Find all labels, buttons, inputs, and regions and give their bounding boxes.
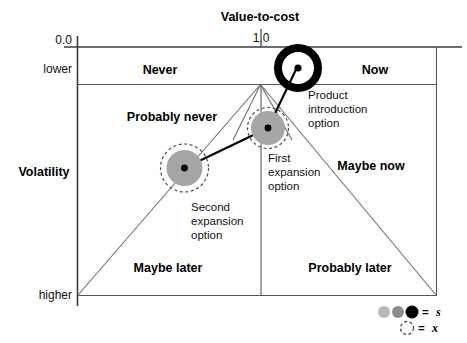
zone-label-never: Never	[143, 63, 178, 77]
second-expansion-line1: Second	[191, 201, 230, 213]
first-expansion-line3: option	[268, 180, 299, 192]
product-introduction-line3: option	[308, 117, 339, 129]
center-dot-product-introduction	[294, 64, 301, 71]
zone-label-maybe-later: Maybe later	[134, 261, 203, 275]
zone-label-probably-never: Probably never	[127, 110, 217, 124]
legend-variable-s: s	[435, 305, 441, 319]
zone-label-now: Now	[362, 63, 389, 77]
legend-variable-x: x	[431, 321, 438, 335]
y-axis-title: Volatility	[18, 165, 69, 179]
second-expansion-line2: expansion	[191, 215, 243, 227]
x-tick-label-origin: 0.0	[55, 33, 72, 47]
legend-light-gray-dot-icon	[378, 306, 390, 318]
legend-mid-gray-dot-icon	[392, 306, 404, 318]
first-expansion-line2: expansion	[268, 166, 320, 178]
legend-equals-s: =	[422, 306, 429, 318]
product-introduction-line1: Product	[308, 89, 348, 101]
second-expansion-line3: option	[191, 229, 222, 241]
zone-label-maybe-now: Maybe now	[337, 159, 405, 173]
product-introduction-line2: introduction	[308, 103, 367, 115]
first-expansion-line1: First	[268, 152, 291, 164]
y-tick-label-higher: higher	[39, 288, 72, 302]
legend-black-dot-icon	[406, 306, 419, 319]
center-dot-second-expansion	[181, 165, 188, 172]
center-dot-first-expansion	[265, 125, 272, 132]
option-space-diagram: Value-to-cost 1.0 0.0 Volatility lower h…	[0, 0, 467, 343]
y-tick-label-lower: lower	[43, 62, 72, 76]
zone-label-probably-later: Probably later	[308, 261, 391, 275]
x-axis-title: Value-to-cost	[221, 10, 300, 24]
legend-equals-x: =	[418, 322, 425, 334]
